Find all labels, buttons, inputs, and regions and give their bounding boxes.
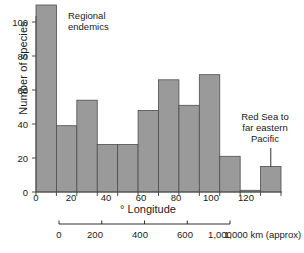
- x-tick-label-100: 100: [198, 192, 224, 203]
- y-tick-label-40: 40: [4, 119, 28, 130]
- histogram-bar: [261, 167, 281, 193]
- histogram-bar: [118, 144, 138, 192]
- km-tick-label-0: 0: [42, 229, 76, 240]
- km-unit-label: 1,000 km (approx): [224, 229, 301, 240]
- histogram-bar: [56, 126, 76, 192]
- histogram-bar: [138, 110, 158, 192]
- histogram-bar: [97, 144, 117, 192]
- histogram-bar: [36, 5, 56, 192]
- km-tick-label-600: 600: [168, 229, 202, 240]
- km-tick-label-400: 400: [123, 229, 157, 240]
- x-tick-label-80: 80: [163, 192, 189, 203]
- y-tick-label-60: 60: [4, 85, 28, 96]
- histogram-bar: [77, 100, 97, 192]
- y-tick-label-100: 100: [4, 17, 28, 28]
- annotation-regional-endemics: Regional endemics: [68, 10, 109, 32]
- km-tick-label-200: 200: [78, 229, 112, 240]
- axes-group: [32, 16, 282, 196]
- x-axis-title-text: ° Longitude: [120, 203, 176, 215]
- x-tick-label-120: 120: [233, 192, 259, 203]
- x-tick-label-0: 0: [23, 192, 49, 203]
- bars-group: [36, 5, 281, 192]
- histogram-bar: [159, 80, 179, 192]
- x-tick-label-40: 40: [93, 192, 119, 203]
- x-tick-label-20: 20: [58, 192, 84, 203]
- y-tick-label-80: 80: [4, 51, 28, 62]
- y-tick-label-20: 20: [4, 153, 28, 164]
- x-tick-label-60: 60: [128, 192, 154, 203]
- histogram-bar: [179, 105, 199, 192]
- histogram-bar: [199, 75, 219, 192]
- histogram-bar: [220, 156, 240, 192]
- annotation-red-sea-to-far-eastern-pacific: Red Sea to far eastern Pacific: [228, 111, 302, 144]
- distance-scale-axis: [59, 221, 230, 225]
- histogram-figure: Number of species 100 80 60 40 20 0 0 20…: [0, 0, 304, 253]
- x-axis-title: ° Longitude: [78, 203, 218, 215]
